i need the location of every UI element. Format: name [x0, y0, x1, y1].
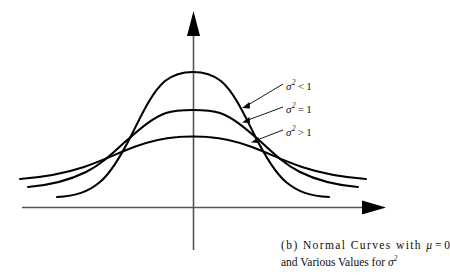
- curve-label-sigma-gt-1: σ2>1: [286, 124, 312, 138]
- relation-value: 1: [306, 80, 312, 92]
- caption-line-1-suffix: = 0: [432, 239, 450, 251]
- relation-value: 1: [306, 126, 312, 138]
- leader-line: [248, 84, 283, 105]
- caption-line-1-prefix: (b) Normal Curves with: [281, 239, 426, 251]
- relation-value: 1: [306, 103, 312, 115]
- relation-operator: >: [296, 126, 307, 138]
- leader-sigma-lt-1: [242, 84, 283, 109]
- leader-arrowhead-icon: [242, 102, 250, 109]
- leader-sigma-eq-1: [242, 107, 283, 123]
- x-axis: [22, 201, 386, 215]
- curve-label-sigma-eq-1: σ2=1: [286, 101, 312, 115]
- figure-caption: (b) Normal Curves with μ = 0 and Various…: [281, 238, 439, 269]
- sigma-exponent: 2: [394, 254, 398, 263]
- x-axis-arrowhead-icon: [362, 201, 386, 215]
- relation-operator: =: [296, 103, 307, 115]
- y-axis: [187, 11, 200, 250]
- curve-label-sigma-lt-1: σ2<1: [286, 78, 312, 92]
- caption-line-1: (b) Normal Curves with μ = 0: [281, 238, 439, 252]
- relation-operator: <: [296, 80, 307, 92]
- caption-line-2-prefix: and Various Values for: [281, 256, 388, 268]
- leader-line: [257, 130, 283, 140]
- leader-line: [248, 107, 283, 120]
- caption-line-2: and Various Values for σ2: [281, 252, 439, 269]
- y-axis-arrowhead-icon: [187, 11, 200, 36]
